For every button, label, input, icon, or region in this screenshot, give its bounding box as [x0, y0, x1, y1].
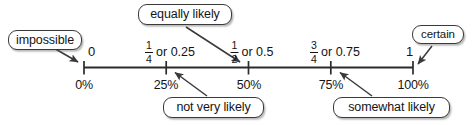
axis-bottom-label-25-percent: 25% [154, 79, 178, 92]
callout-equally-likely: equally likely [138, 4, 232, 25]
fraction-denominator: 4 [310, 54, 318, 65]
axis-bottom-label-100-percent: 100% [397, 79, 428, 92]
decimal-text-threequarter: or 0.75 [321, 46, 360, 59]
fraction-denominator: 2 [231, 54, 239, 65]
callout-certain: certain [412, 25, 464, 44]
arrow-somewhat-likely-to-threequarter [340, 73, 372, 97]
arrow-not-very-likely-to-quarter [175, 73, 207, 97]
decimal-text-quarter: or 0.25 [156, 46, 195, 59]
axis-top-label-threequarter: 3 4 or 0.75 [310, 40, 360, 64]
fraction-denominator: 4 [145, 54, 153, 65]
fraction-three-quarters: 3 4 [310, 40, 318, 64]
callout-not-very-likely: not very likely [163, 97, 264, 118]
callout-impossible: impossible [8, 30, 82, 50]
fraction-numerator: 3 [310, 40, 318, 51]
axis-top-label-quarter: 1 4 or 0.25 [145, 40, 195, 64]
fraction-numerator: 1 [231, 40, 239, 51]
callout-somewhat-likely: somewhat likely [333, 97, 450, 118]
axis-top-label-half: 1 2 or 0.5 [231, 40, 274, 64]
probability-number-line-diagram: 0 1 1 4 or 0.25 1 2 or 0.5 3 4 or 0.75 0… [0, 0, 472, 125]
fraction-one-half: 1 2 [231, 40, 239, 64]
fraction-one-quarter: 1 4 [145, 40, 153, 64]
decimal-text-half: or 0.5 [242, 46, 274, 59]
axis-top-label-zero: 0 [88, 45, 95, 58]
axis-bottom-label-50-percent: 50% [237, 79, 261, 92]
axis-bottom-label-75-percent: 75% [319, 79, 343, 92]
axis-bottom-label-0-percent: 0% [75, 79, 93, 92]
axis-top-label-one: 1 [406, 45, 413, 58]
arrow-certain-to-one [418, 46, 432, 64]
fraction-numerator: 1 [145, 40, 153, 51]
